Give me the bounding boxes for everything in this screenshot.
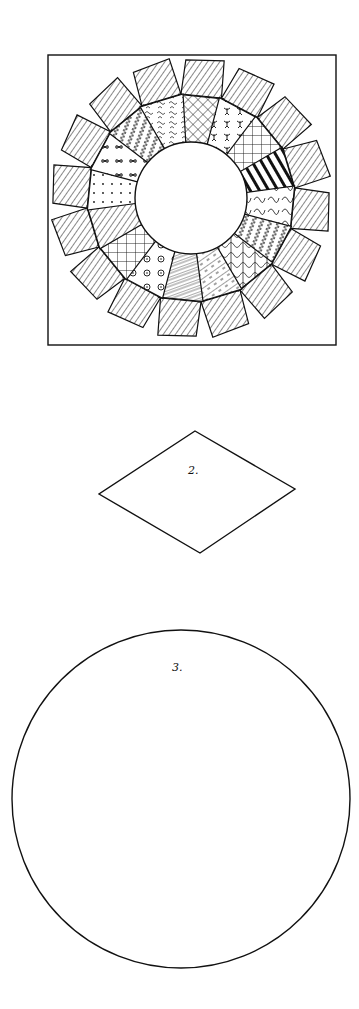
petal-tip (291, 188, 329, 231)
quilt-illustration: 2. 3. (0, 0, 359, 1009)
circle-template-label: 3. (172, 661, 183, 674)
petal-tip (53, 165, 91, 208)
plate-center-circle (135, 142, 247, 254)
petal-tip (181, 60, 224, 98)
petal-tip (158, 298, 201, 336)
circle-template (12, 630, 350, 968)
diamond-template-label: 2. (187, 464, 199, 477)
diamond-template (99, 431, 295, 553)
